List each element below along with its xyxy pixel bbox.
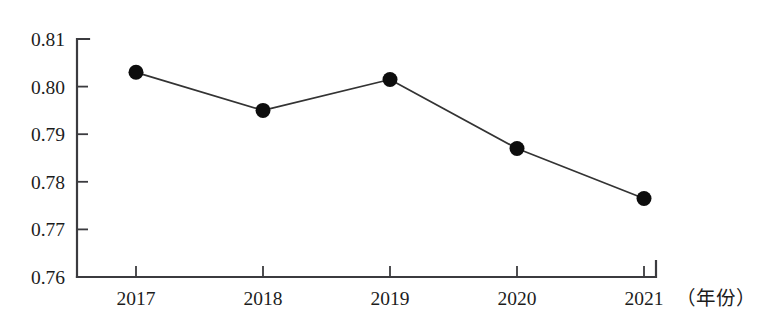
y-axis-line bbox=[77, 39, 91, 277]
y-axis-tick-label: 0.79 bbox=[31, 124, 65, 145]
data-point-marker bbox=[510, 141, 525, 156]
y-axis-tick-labels: 0.810.800.790.780.770.76 bbox=[31, 29, 65, 288]
chart-canvas: 0.810.800.790.780.770.76 201720182019202… bbox=[0, 0, 765, 335]
x-axis-line bbox=[77, 261, 656, 277]
data-point-marker bbox=[637, 191, 652, 206]
data-point-marker bbox=[383, 72, 398, 87]
line-chart: 0.810.800.790.780.770.76 201720182019202… bbox=[0, 0, 765, 335]
data-point-markers bbox=[129, 65, 652, 206]
data-series-line bbox=[136, 72, 644, 198]
y-axis-tick-label: 0.81 bbox=[31, 29, 65, 50]
y-axis-tick-label: 0.77 bbox=[31, 219, 65, 240]
data-point-marker bbox=[129, 65, 144, 80]
x-axis-tick-marks bbox=[136, 266, 644, 277]
x-axis-caption: （年份） bbox=[676, 288, 756, 309]
y-axis-tick-label: 0.80 bbox=[31, 77, 65, 98]
y-axis-tick-label: 0.78 bbox=[31, 172, 65, 193]
y-axis-tick-label: 0.76 bbox=[31, 267, 65, 288]
data-point-marker bbox=[256, 103, 271, 118]
x-axis-tick-label: 2018 bbox=[244, 288, 283, 309]
x-axis-tick-label: 2019 bbox=[371, 288, 410, 309]
y-axis-tick-marks bbox=[77, 87, 88, 230]
x-axis-tick-label: 2020 bbox=[498, 288, 537, 309]
x-axis-tick-labels: 20172018201920202021 bbox=[117, 288, 664, 309]
x-axis-tick-label: 2017 bbox=[117, 288, 156, 309]
x-axis-tick-label: 2021 bbox=[625, 288, 664, 309]
